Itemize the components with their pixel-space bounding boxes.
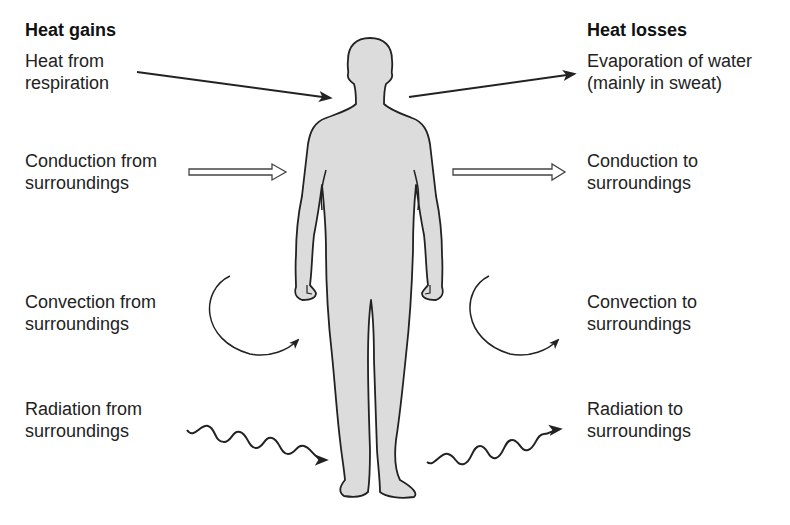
conduction-from-arrow	[189, 164, 286, 180]
label-line: respiration	[25, 72, 109, 94]
label-line: Convection from	[25, 291, 156, 313]
label-line: Evaporation of water	[587, 50, 752, 72]
label-line: surroundings	[25, 172, 157, 194]
evaporation-arrow	[409, 74, 574, 97]
loss-label-evaporation: Evaporation of water (mainly in sweat)	[587, 50, 752, 94]
heat-exchange-diagram: Heat gains Heat losses Heat from respira…	[0, 0, 790, 525]
respiration-arrow	[137, 72, 330, 98]
label-line: Radiation from	[25, 398, 142, 420]
label-line: Convection to	[587, 291, 697, 313]
label-line: (mainly in sweat)	[587, 72, 752, 94]
convection-from-arrow	[210, 276, 298, 355]
convection-to-arrow	[470, 276, 558, 355]
radiation-from-arrow	[187, 426, 326, 460]
label-line: surroundings	[587, 172, 698, 194]
loss-label-conduction: Conduction to surroundings	[587, 150, 698, 194]
label-line: Conduction to	[587, 150, 698, 172]
label-line: surroundings	[25, 420, 142, 442]
label-line: Conduction from	[25, 150, 157, 172]
gain-label-respiration: Heat from respiration	[25, 50, 109, 94]
loss-label-radiation: Radiation to surroundings	[587, 398, 691, 442]
radiation-to-arrow	[427, 429, 560, 464]
label-line: surroundings	[25, 313, 156, 335]
conduction-to-arrow	[453, 164, 565, 180]
gain-label-radiation: Radiation from surroundings	[25, 398, 142, 442]
human-body-icon	[295, 38, 443, 498]
label-line: Radiation to	[587, 398, 691, 420]
label-line: surroundings	[587, 420, 691, 442]
gain-label-conduction: Conduction from surroundings	[25, 150, 157, 194]
label-line: Heat from	[25, 50, 109, 72]
heat-gains-heading: Heat gains	[25, 20, 116, 41]
label-line: surroundings	[587, 313, 697, 335]
heat-losses-heading: Heat losses	[587, 20, 687, 41]
loss-label-convection: Convection to surroundings	[587, 291, 697, 335]
gain-label-convection: Convection from surroundings	[25, 291, 156, 335]
